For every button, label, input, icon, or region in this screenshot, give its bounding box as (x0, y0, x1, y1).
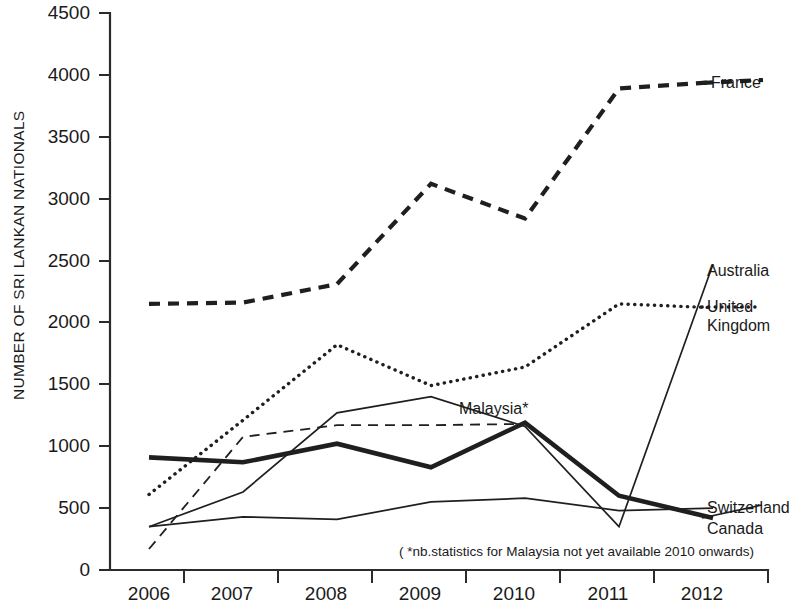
x-tick-labels: 2006 2007 2008 2009 2010 2011 2012 (128, 583, 723, 604)
chart-canvas: 4500 4000 3500 3000 2500 2000 1500 1000 … (0, 0, 794, 605)
series-line-france (149, 82, 713, 304)
x-tick-label-2007: 2007 (211, 583, 253, 604)
line-chart-figure: 4500 4000 3500 3000 2500 2000 1500 1000 … (0, 0, 794, 605)
series-labels: France Australia United Kingdom Switzerl… (459, 74, 790, 537)
axes-group (110, 13, 768, 570)
x-tick-label-2008: 2008 (305, 583, 347, 604)
x-tick-label-2010: 2010 (493, 583, 535, 604)
y-tick-label-2000: 2000 (48, 311, 90, 332)
y-tick-label-4000: 4000 (48, 64, 90, 85)
series-label-malaysia: Malaysia* (459, 400, 528, 417)
y-tick-label-4500: 4500 (48, 2, 90, 23)
series-label-united-kingdom-1: United (707, 298, 753, 315)
footnote-annotation: ( *nb.statistics for Malaysia not yet av… (399, 544, 754, 559)
series-label-switzerland: Switzerland (707, 499, 790, 516)
x-tick-label-2006: 2006 (128, 583, 170, 604)
series-label-france: France (711, 74, 761, 91)
series-line-canada (149, 423, 713, 518)
y-tick-label-3500: 3500 (48, 126, 90, 147)
y-tick-label-1500: 1500 (48, 373, 90, 394)
y-axis-title: NUMBER OF SRI LANKAN NATIONALS (10, 111, 27, 400)
x-tick-label-2011: 2011 (588, 583, 629, 604)
y-tick-label-1000: 1000 (48, 435, 90, 456)
x-tick-label-2012: 2012 (681, 583, 723, 604)
y-tick-label-0: 0 (79, 559, 90, 580)
series-label-australia: Australia (707, 262, 769, 279)
series-label-united-kingdom-2: Kingdom (707, 317, 770, 334)
x-tick-marks (184, 570, 768, 583)
y-tick-label-2500: 2500 (48, 250, 90, 271)
x-tick-label-2009: 2009 (399, 583, 441, 604)
y-tick-marks (99, 13, 110, 570)
series-group (149, 82, 713, 549)
y-tick-labels: 4500 4000 3500 3000 2500 2000 1500 1000 … (48, 2, 90, 580)
y-tick-label-3000: 3000 (48, 188, 90, 209)
series-label-canada: Canada (707, 520, 763, 537)
y-tick-label-500: 500 (58, 497, 90, 518)
